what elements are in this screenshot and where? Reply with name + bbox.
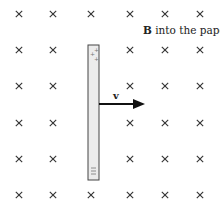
field-cross-icon <box>16 192 22 198</box>
field-cross-icon <box>197 11 203 17</box>
field-cross-icon <box>50 47 56 53</box>
field-cross-icon <box>162 47 168 53</box>
field-cross-icon <box>16 156 22 162</box>
field-cross-icon <box>197 156 203 162</box>
velocity-label: v <box>112 90 120 101</box>
field-cross-icon <box>16 47 22 53</box>
field-cross-icon <box>127 156 133 162</box>
field-cross-icon <box>127 120 133 126</box>
field-cross-icon <box>127 83 133 89</box>
conducting-rod <box>88 45 99 180</box>
magnetic-field-diagram: + + + v B into the paper <box>0 0 220 207</box>
field-label: B into the paper <box>143 24 220 36</box>
field-cross-icon <box>162 83 168 89</box>
field-cross-icon <box>197 192 203 198</box>
field-cross-icon <box>127 11 133 17</box>
field-cross-icon <box>16 11 22 17</box>
field-cross-icon <box>162 156 168 162</box>
field-cross-icon <box>50 83 56 89</box>
velocity-arrow <box>99 99 145 109</box>
field-label-b: B <box>143 24 152 36</box>
svg-text:+: + <box>94 55 99 62</box>
field-cross-icon <box>50 120 56 126</box>
field-cross-icon <box>127 192 133 198</box>
field-cross-icon <box>50 11 56 17</box>
field-cross-icon <box>197 83 203 89</box>
field-cross-icon <box>50 192 56 198</box>
field-cross-icon <box>162 192 168 198</box>
field-cross-icon <box>16 120 22 126</box>
field-cross-icon <box>88 11 94 17</box>
field-cross-icon <box>162 120 168 126</box>
field-cross-icon <box>88 192 94 198</box>
field-cross-icon <box>197 120 203 126</box>
field-cross-icon <box>197 47 203 53</box>
field-cross-icon <box>16 83 22 89</box>
field-label-text: into the paper <box>152 24 220 36</box>
field-cross-icon <box>127 47 133 53</box>
field-cross-icon <box>50 156 56 162</box>
field-cross-icon <box>162 11 168 17</box>
